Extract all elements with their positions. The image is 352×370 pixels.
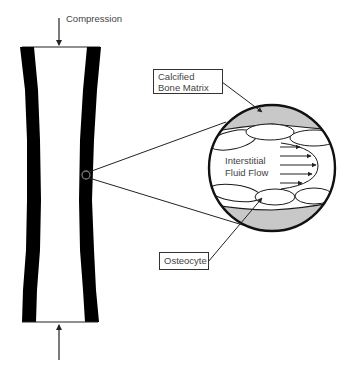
magnify-line-top <box>89 122 226 172</box>
interstitial-fluid-flow-label: Interstitial Fluid Flow <box>225 155 273 179</box>
compression-label: Compression <box>66 13 122 25</box>
calcified-bone-matrix-label: Calcified Bone Matrix <box>153 69 223 94</box>
bone-wall-left <box>20 47 41 322</box>
osteocyte-bottom-2 <box>255 189 295 205</box>
osteocyte-top-2 <box>246 124 294 140</box>
matrix-leader-line <box>222 82 262 112</box>
bone-wall-right <box>79 47 101 322</box>
osteocyte-label: Osteocyte <box>159 252 209 270</box>
bone-diagram <box>0 0 352 370</box>
